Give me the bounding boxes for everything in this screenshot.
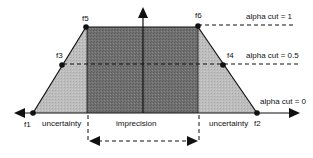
label-alpha-cut-0: alpha cut = 0 (260, 97, 307, 106)
point-f5 (83, 24, 89, 30)
x-axis-left-arrow-icon (14, 108, 25, 118)
label-f5: f5 (82, 14, 89, 23)
point-f4 (220, 62, 226, 68)
label-f1: f1 (24, 120, 31, 129)
label-f4: f4 (227, 51, 234, 60)
x-axis-right-arrow-icon (289, 108, 300, 118)
y-axis-arrow-icon (138, 7, 148, 18)
imprecision-right-arrow-icon (187, 136, 198, 146)
imprecision-left-arrow-icon (89, 136, 100, 146)
label-imprecision: imprecision (116, 119, 156, 128)
label-f3: f3 (56, 51, 63, 60)
point-f1 (30, 110, 36, 116)
label-f2: f2 (254, 119, 261, 128)
label-uncertainty-right: uncertainty (209, 119, 248, 128)
label-uncertainty-left: uncertainty (42, 119, 81, 128)
point-f6 (195, 23, 201, 29)
point-f3 (59, 62, 65, 68)
label-alpha-cut-1: alpha cut = 1 (246, 12, 293, 21)
point-f2 (254, 110, 260, 116)
label-f6: f6 (195, 11, 202, 20)
label-alpha-cut-05: alpha cut = 0.5 (246, 51, 299, 60)
fuzzy-number-diagram: f5 f6 f3 f4 f1 f2 alpha cut = 1 alpha cu… (0, 0, 313, 158)
